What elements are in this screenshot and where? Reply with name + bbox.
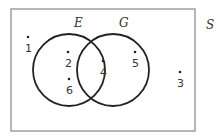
- point-dot: [134, 51, 137, 54]
- point-1: 1: [25, 36, 32, 55]
- venn-diagram: S E G 1 2 6 4 5 3: [0, 0, 219, 140]
- point-3: 3: [177, 71, 184, 90]
- point-dot: [68, 78, 71, 81]
- set-g-circle: [77, 34, 149, 106]
- point-dot: [179, 71, 182, 74]
- set-e-label: E: [73, 16, 83, 30]
- point-dot: [102, 60, 105, 63]
- point-label: 2: [65, 57, 72, 70]
- point-2: 2: [65, 51, 72, 70]
- universe-label: S: [206, 18, 214, 32]
- point-label: 3: [177, 77, 184, 90]
- point-5: 5: [132, 51, 139, 70]
- point-6: 6: [66, 78, 73, 97]
- point-label: 1: [25, 42, 32, 55]
- point-label: 4: [100, 66, 107, 79]
- point-dot: [67, 51, 70, 54]
- set-g-label: G: [119, 16, 129, 30]
- point-label: 6: [66, 84, 73, 97]
- point-label: 5: [132, 57, 139, 70]
- point-dot: [27, 36, 30, 39]
